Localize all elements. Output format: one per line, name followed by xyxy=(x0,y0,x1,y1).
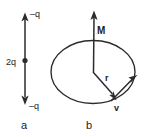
label-top-charge: –q xyxy=(30,9,40,19)
figure-canvas: –q 2q –q a M r v b xyxy=(0,0,145,137)
label-bottom-charge: –q xyxy=(29,101,39,111)
label-center-charge: 2q xyxy=(6,57,16,67)
label-radius-vector: r xyxy=(105,73,109,83)
physics-figure: –q 2q –q a M r v b xyxy=(0,0,145,137)
radius-vector-shaft xyxy=(93,72,113,94)
label-moment-vector: M xyxy=(97,25,105,36)
caption-panel-a: a xyxy=(21,119,28,131)
velocity-vector-shaft xyxy=(111,80,132,102)
label-velocity-vector: v xyxy=(114,103,119,113)
panel-a-group: –q 2q –q a xyxy=(6,9,40,132)
moment-vector-shaft xyxy=(94,18,95,72)
panel-b-group: M r v b xyxy=(51,11,138,132)
center-charge-dot xyxy=(22,58,27,63)
caption-panel-b: b xyxy=(86,119,92,131)
